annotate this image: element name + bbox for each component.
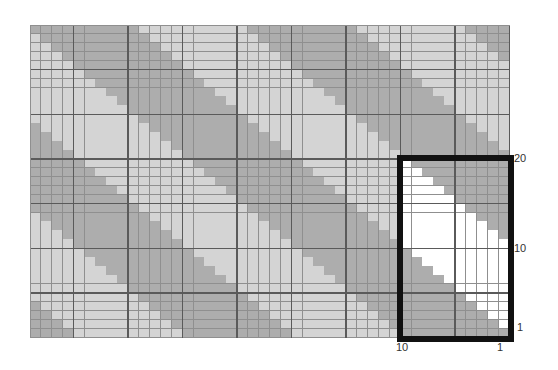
row-label-1: 1	[517, 321, 523, 333]
row-label-10: 10	[514, 242, 526, 254]
row-label-20: 20	[514, 152, 526, 164]
column-label-1: 1	[497, 341, 503, 353]
column-label-10: 10	[396, 341, 408, 353]
highlight-repeat-box	[397, 155, 514, 342]
